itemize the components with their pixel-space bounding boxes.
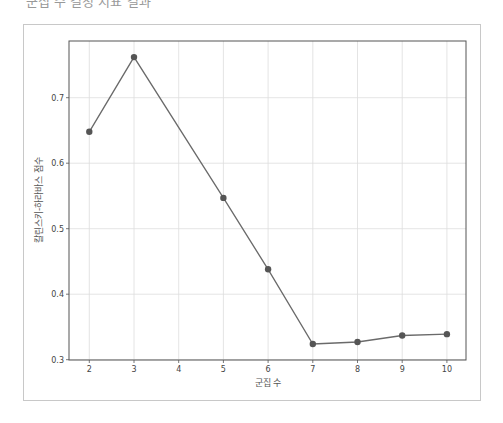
x-axis-label: 군집 수 [255, 377, 282, 388]
x-tick-label: 5 [221, 365, 226, 374]
x-tick-label: 10 [442, 365, 452, 374]
x-tick-label: 6 [266, 365, 271, 374]
x-tick-label: 7 [310, 365, 315, 374]
x-tick-label: 9 [400, 365, 405, 374]
data-point-marker [265, 266, 271, 272]
grid-lines [69, 41, 466, 360]
x-axis-ticks: 2345678910 [87, 360, 452, 374]
y-tick-label: 0.7 [51, 94, 64, 103]
x-tick-label: 3 [131, 365, 136, 374]
data-point-marker [310, 341, 316, 347]
data-point-marker [131, 54, 137, 60]
x-tick-label: 8 [355, 365, 360, 374]
data-point-marker [444, 331, 450, 337]
plot-area [69, 41, 466, 360]
data-point-marker [399, 332, 405, 338]
y-tick-label: 0.4 [51, 290, 64, 299]
x-tick-label: 2 [87, 365, 92, 374]
y-tick-label: 0.3 [51, 356, 64, 365]
y-tick-label: 0.5 [51, 225, 64, 234]
x-tick-label: 4 [176, 365, 181, 374]
data-point-marker [86, 129, 92, 135]
y-axis-label: 칼린스키-하라바스 점수 [33, 157, 44, 243]
data-point-marker [220, 195, 226, 201]
data-point-marker [354, 339, 360, 345]
line-chart: 2345678910 0.30.40.50.60.7 군집 수 칼린스키-하라바… [0, 0, 503, 423]
y-tick-label: 0.6 [51, 159, 64, 168]
y-axis-ticks: 0.30.40.50.60.7 [51, 94, 69, 365]
